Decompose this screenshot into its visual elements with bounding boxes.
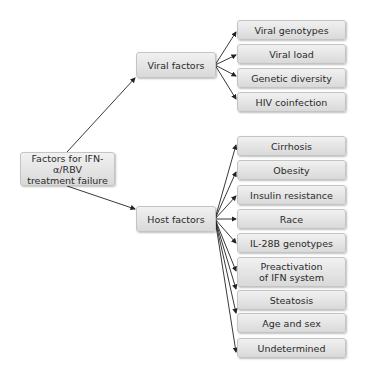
viral-factors-node: Viral factors: [136, 52, 216, 78]
leaf-label: HIV coinfection: [256, 97, 328, 108]
leaf-label: Genetic diversity: [251, 73, 332, 84]
leaf-label: Insulin resistance: [250, 190, 333, 201]
leaf-viral-load: Viral load: [237, 44, 346, 64]
leaf-undetermined: Undetermined: [237, 338, 346, 358]
leaf-hiv-coinfection: HIV coinfection: [237, 92, 346, 112]
leaf-age-and-sex: Age and sex: [237, 313, 346, 333]
leaf-race: Race: [237, 209, 346, 229]
leaf-label: Undetermined: [258, 343, 326, 354]
leaf-label: Race: [280, 214, 303, 225]
leaf-il28b-genotypes: IL-28B genotypes: [237, 233, 346, 253]
leaf-genetic-diversity: Genetic diversity: [237, 68, 346, 88]
leaf-label: Age and sex: [262, 318, 321, 329]
leaf-steatosis: Steatosis: [237, 290, 346, 310]
leaf-label: IL-28B genotypes: [250, 238, 333, 249]
leaf-label-line2: of IFN system: [259, 272, 324, 283]
leaf-label-line1: Preactivation: [260, 261, 322, 272]
leaf-preactivation-ifn: Preactivation of IFN system: [237, 257, 346, 287]
leaf-insulin-resistance: Insulin resistance: [237, 185, 346, 205]
root-node: Factors for IFN-α/RBV treatment failure: [20, 152, 115, 186]
root-label-line2: treatment failure: [27, 175, 108, 186]
host-factors-label: Host factors: [147, 214, 204, 225]
viral-factors-label: Viral factors: [147, 60, 204, 71]
leaf-label: Viral load: [269, 49, 314, 60]
leaf-label: Viral genotypes: [254, 25, 328, 36]
leaf-viral-genotypes: Viral genotypes: [237, 20, 346, 40]
root-label-line1: Factors for IFN-α/RBV: [21, 153, 114, 175]
leaf-cirrhosis: Cirrhosis: [237, 136, 346, 156]
host-factors-node: Host factors: [136, 206, 216, 232]
leaf-label: Cirrhosis: [271, 141, 312, 152]
leaf-label: Obesity: [273, 165, 309, 176]
leaf-label: Steatosis: [270, 295, 314, 306]
leaf-obesity: Obesity: [237, 160, 346, 180]
